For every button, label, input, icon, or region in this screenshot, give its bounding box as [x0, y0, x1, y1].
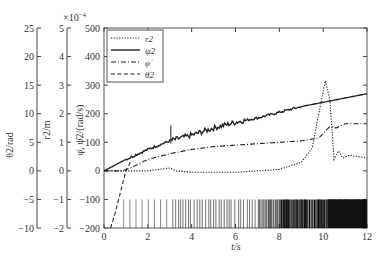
svg-text:25: 25 [24, 23, 34, 34]
svg-text:4: 4 [189, 231, 194, 242]
svg-text:4: 4 [59, 51, 64, 62]
svg-text:20: 20 [24, 51, 34, 62]
series-dotted [104, 81, 367, 172]
legend-item: r2 [145, 34, 154, 44]
svg-text:−5: −5 [23, 194, 34, 205]
r-axis-label: r2/m [41, 120, 52, 139]
event-bars [124, 199, 367, 228]
legend-item: θ2 [145, 70, 154, 80]
r-axis-multiplier: ×10−4 [63, 11, 87, 23]
main-axis-label: φ̇, ψ̇2/(rad/s) [74, 105, 86, 156]
chart: 2520151050−5−10 θ2/rad 543210−1−2 r2/m ×… [0, 0, 381, 257]
svg-text:500: 500 [85, 23, 100, 34]
svg-text:0: 0 [29, 165, 34, 176]
svg-text:8: 8 [277, 231, 282, 242]
svg-text:300: 300 [85, 80, 100, 91]
x-axis-label: t/s [231, 241, 241, 252]
svg-text:−10: −10 [18, 223, 34, 234]
theta-axis-label: θ2/rad [4, 132, 15, 157]
svg-text:−100: −100 [79, 194, 100, 205]
svg-text:5: 5 [29, 137, 34, 148]
svg-text:5: 5 [59, 23, 64, 34]
legend: r2ψ̇2φ̇θ2 [107, 30, 163, 82]
svg-text:10: 10 [318, 231, 328, 242]
svg-text:12: 12 [362, 231, 372, 242]
series-dashed [111, 162, 131, 228]
series-dashdot [104, 124, 367, 171]
svg-text:200: 200 [85, 108, 100, 119]
svg-text:0: 0 [102, 231, 107, 242]
svg-text:−2: −2 [53, 223, 64, 234]
svg-text:2: 2 [145, 231, 150, 242]
svg-text:10: 10 [24, 108, 34, 119]
svg-text:2: 2 [59, 108, 64, 119]
svg-text:−200: −200 [79, 223, 100, 234]
theta-axis: 2520151050−5−10 θ2/rad [4, 23, 41, 234]
svg-text:−1: −1 [53, 194, 64, 205]
series-solid [104, 94, 367, 171]
svg-text:1: 1 [59, 137, 64, 148]
svg-text:100: 100 [85, 137, 100, 148]
svg-text:0: 0 [95, 165, 100, 176]
svg-text:0: 0 [59, 165, 64, 176]
svg-text:3: 3 [59, 80, 64, 91]
svg-text:400: 400 [85, 51, 100, 62]
legend-item: ψ̇2 [145, 46, 156, 56]
svg-text:15: 15 [24, 80, 34, 91]
